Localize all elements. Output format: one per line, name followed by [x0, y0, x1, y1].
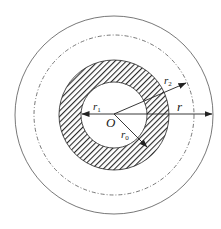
- r1-label: r1: [93, 100, 101, 114]
- r0-label: r0: [121, 128, 129, 142]
- r0-arrow: [114, 114, 147, 147]
- center-label: O: [106, 115, 116, 130]
- r2-label: r2: [164, 74, 172, 88]
- r-label: r: [177, 99, 183, 114]
- annulus-radius-diagram: O r1 r2 r0 r: [0, 0, 221, 229]
